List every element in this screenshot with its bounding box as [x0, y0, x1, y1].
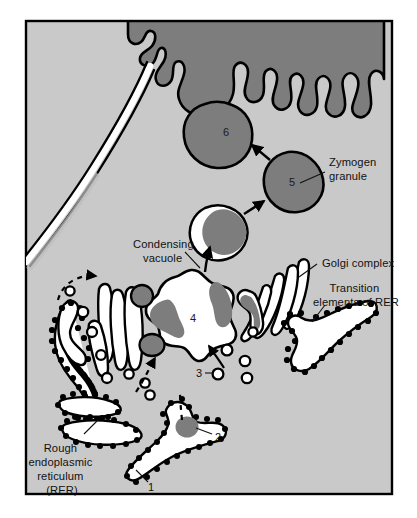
- vesicle: [145, 390, 154, 399]
- zymogen-granule-6: [184, 102, 253, 168]
- step-number-5: 5: [289, 176, 295, 188]
- vesicle: [240, 356, 250, 366]
- vesicle: [87, 327, 97, 337]
- step-number-3: 3: [196, 367, 202, 379]
- vesicle: [222, 345, 233, 356]
- label-golgi-complex: Golgi complex: [322, 257, 394, 269]
- secretory-pathway-figure: Zymogen granule Condensing vacuole Golgi…: [0, 0, 417, 518]
- segregated-protein-2: [176, 417, 199, 438]
- step-number-4: 4: [190, 312, 196, 324]
- step-number-1: 1: [148, 481, 154, 493]
- vesicle: [242, 373, 252, 383]
- vesicle: [96, 350, 106, 360]
- golgi-granule-upper: [131, 285, 153, 307]
- vesicle-step-3: [213, 369, 224, 380]
- vesicle: [65, 286, 74, 295]
- vesicle: [248, 327, 257, 336]
- vesicle: [124, 369, 133, 378]
- vesicle: [78, 307, 88, 317]
- step-number-2: 2: [215, 431, 221, 443]
- golgi-granule-lower: [140, 334, 165, 356]
- cell-diagram-canvas: Zymogen granule Condensing vacuole Golgi…: [0, 0, 417, 518]
- vesicle: [102, 373, 112, 383]
- step-number-6: 6: [223, 126, 229, 138]
